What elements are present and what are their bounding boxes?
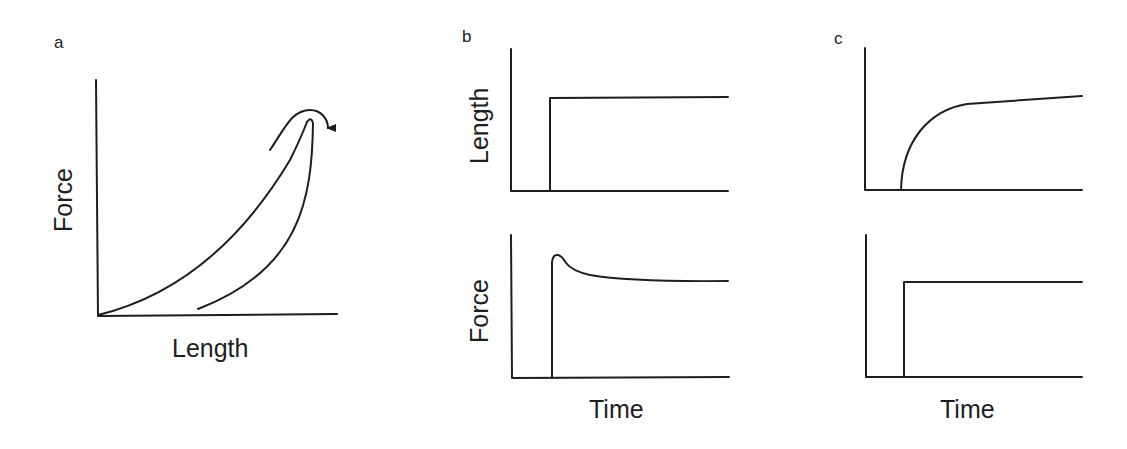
viscoelasticity-figure: a Force Length b Length Force Time c Tim…	[0, 0, 1127, 449]
xlabel-time-c: Time	[940, 395, 995, 423]
direction-arrow-icon	[270, 110, 328, 150]
force-relaxation-curve	[552, 255, 728, 378]
ylabel-length-b: Length	[465, 88, 493, 164]
panel-b: b Length Force Time	[462, 27, 729, 423]
panel-c: c Time	[834, 29, 1082, 423]
xlabel-time-b: Time	[589, 395, 644, 423]
force-step-curve	[904, 282, 1082, 377]
force-time-axes-c	[866, 235, 1082, 377]
ylabel-force-b: Force	[465, 279, 493, 343]
panel-letter-a: a	[54, 33, 64, 52]
panel-a: a Force Length	[49, 33, 337, 362]
ylabel-force-a: Force	[49, 168, 77, 232]
panel-letter-b: b	[462, 27, 471, 46]
length-time-axes-c	[865, 48, 1082, 190]
length-time-axes-b	[511, 49, 728, 191]
force-length-axes	[96, 80, 337, 316]
length-creep-curve	[901, 96, 1082, 190]
length-step-curve	[550, 97, 728, 191]
panel-letter-c: c	[834, 29, 843, 48]
xlabel-length-a: Length	[172, 334, 248, 362]
loading-curve	[98, 122, 307, 315]
force-time-axes-b	[511, 235, 729, 378]
